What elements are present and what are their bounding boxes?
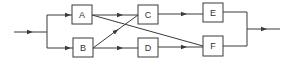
- node-a-label: A: [79, 10, 85, 20]
- node-f: F: [203, 36, 223, 56]
- node-a: A: [72, 5, 92, 24]
- node-c-label: C: [145, 10, 152, 20]
- node-d: D: [138, 38, 158, 57]
- node-b-label: B: [80, 43, 86, 53]
- node-d-label: D: [145, 43, 152, 53]
- node-c: C: [138, 5, 158, 24]
- node-e-label: E: [210, 8, 216, 18]
- edge-b-c: [93, 15, 138, 48]
- edge-f-output: [223, 29, 247, 46]
- edge-e-output: [223, 12, 247, 29]
- node-e: E: [203, 3, 223, 22]
- node-f-label: F: [210, 41, 216, 51]
- node-b: B: [73, 38, 93, 57]
- flow-diagram: A B C D E F: [0, 0, 297, 63]
